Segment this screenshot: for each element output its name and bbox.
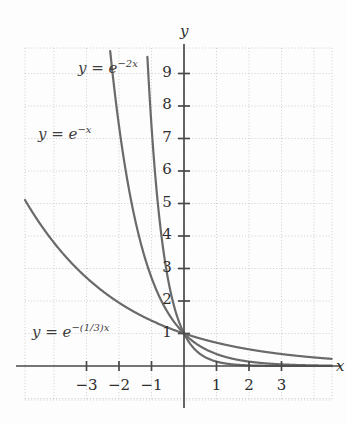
x-axis-label: x: [336, 357, 344, 375]
curve-label-e-neg-2x-base: y = e: [78, 59, 117, 77]
curve-label-e-neg-x: y = e−x: [38, 124, 92, 143]
x-tick-label: −1: [141, 376, 163, 394]
x-tick-label: 1: [206, 376, 228, 394]
y-tick-label: 4: [158, 225, 176, 243]
y-tick-label: 9: [158, 63, 176, 81]
y-tick-label: 7: [158, 128, 176, 146]
curve-group: [25, 51, 332, 366]
curve-label-e-neg-third-x: y = e−(1/3)x: [32, 322, 109, 341]
y-tick-label: 6: [158, 160, 176, 178]
y-tick-label: 1: [158, 323, 176, 341]
y-tick-label: 2: [158, 290, 176, 308]
curve-label-e-neg-x-exponent: −x: [77, 124, 91, 135]
figure-container: −3−2−1123123456789yxy = e−2xy = e−xy = e…: [0, 0, 347, 424]
curve-2: [110, 51, 331, 365]
curve-label-e-neg-2x-exponent: −2x: [117, 58, 137, 69]
grid-lines: [25, 48, 332, 400]
x-tick-label: −2: [108, 376, 130, 394]
curve-label-e-neg-third-x-base: y = e: [32, 323, 71, 341]
y-tick-label: 5: [158, 193, 176, 211]
y-axis-label: y: [180, 22, 188, 40]
x-tick-label: 3: [271, 376, 293, 394]
curve-label-e-neg-2x: y = e−2x: [78, 58, 138, 77]
curve-label-e-neg-third-x-exponent: −(1/3)x: [71, 322, 109, 333]
curve-label-e-neg-x-base: y = e: [38, 125, 77, 143]
y-tick-label: 3: [158, 258, 176, 276]
x-tick-label: −3: [76, 376, 98, 394]
x-tick-label: 2: [238, 376, 260, 394]
y-tick-label: 8: [158, 95, 176, 113]
